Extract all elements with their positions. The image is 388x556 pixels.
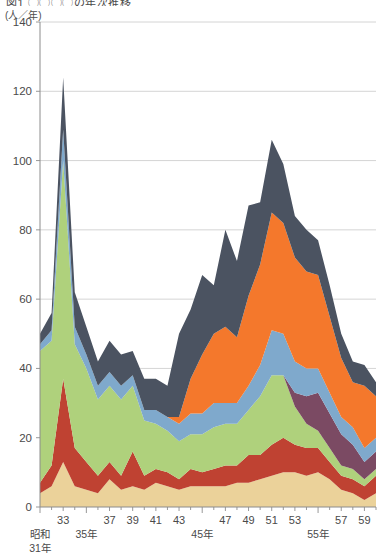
y-tick-label-60: 60 xyxy=(19,293,32,305)
x-tick-label-59: 59 xyxy=(358,514,370,526)
y-tick-label-80: 80 xyxy=(19,224,32,236)
x-major-label-35: 35年 xyxy=(76,528,98,540)
x-major-label-55: 55年 xyxy=(307,528,329,540)
figure-container: 図1 ◯◯◯◯の年次推移 (人／年) 020406080100120140333… xyxy=(0,0,388,556)
x-tick-label-53: 53 xyxy=(289,514,301,526)
y-tick-label-100: 100 xyxy=(13,155,32,167)
x-tick-label-57: 57 xyxy=(335,514,347,526)
x-tick-label-39: 39 xyxy=(127,514,139,526)
x-tick-label-51: 51 xyxy=(266,514,278,526)
x-tick-label-47: 47 xyxy=(219,514,231,526)
x-tick-label-49: 49 xyxy=(242,514,254,526)
y-tick-label-20: 20 xyxy=(19,432,32,444)
x-tick-label-41: 41 xyxy=(150,514,162,526)
y-tick-label-140: 140 xyxy=(13,16,32,28)
y-tick-label-120: 120 xyxy=(13,85,32,97)
x-tick-label-33: 33 xyxy=(57,514,69,526)
x-tick-label-37: 37 xyxy=(103,514,115,526)
y-tick-label-0: 0 xyxy=(26,501,32,513)
x-major-label-45: 45年 xyxy=(191,528,213,540)
plot-area: 0204060801001201403337394143474951535759… xyxy=(0,0,388,556)
x-major-label-31: 昭和31年 xyxy=(29,528,51,554)
y-tick-label-40: 40 xyxy=(19,362,32,374)
stacked-area-chart: 0204060801001201403337394143474951535759… xyxy=(0,0,388,556)
x-tick-label-43: 43 xyxy=(173,514,185,526)
